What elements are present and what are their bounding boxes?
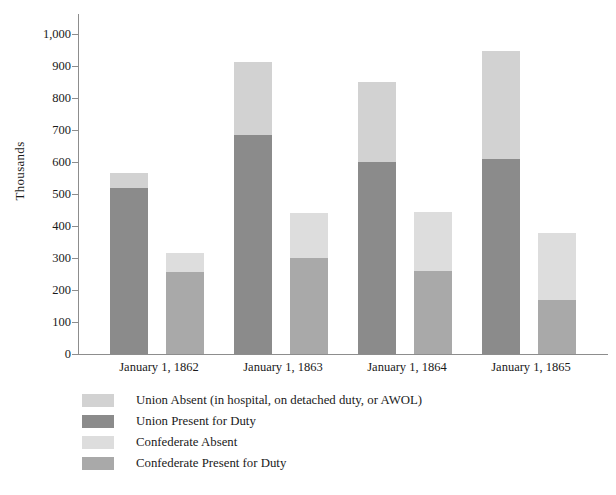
y-axis-tick-mark	[72, 226, 78, 227]
x-axis-label: January 1, 1865	[476, 360, 586, 375]
x-axis-line	[78, 354, 608, 355]
bar-segment-absent	[358, 82, 396, 162]
legend-label: Union Absent (in hospital, on detached d…	[136, 394, 422, 407]
bar-segment-present	[358, 162, 396, 354]
bar-segment-absent	[234, 62, 272, 135]
chart-figure: Thousands 1,0009008007006005004003002001…	[0, 0, 616, 495]
bar-group	[104, 14, 214, 354]
y-axis-tick-label: 1,000	[43, 28, 71, 41]
bar-union	[482, 51, 520, 354]
bar-group	[352, 14, 462, 354]
y-axis-tick-mark	[72, 258, 78, 259]
bar-confederate	[290, 213, 328, 354]
bar-confederate	[414, 212, 452, 354]
y-axis-tick-label: 400	[52, 220, 71, 233]
y-axis-tick-mark	[72, 66, 78, 67]
y-axis-tick-mark	[72, 194, 78, 195]
legend-label: Union Present for Duty	[136, 415, 256, 428]
y-axis-tick-label: 700	[52, 124, 71, 137]
legend-item: Confederate Absent	[82, 432, 552, 453]
bar-confederate	[166, 253, 204, 354]
y-axis-tick-label: 200	[52, 284, 71, 297]
x-axis-label: January 1, 1862	[104, 360, 214, 375]
legend-swatch	[82, 394, 114, 407]
bar-segment-present	[538, 300, 576, 354]
bar-group	[228, 14, 338, 354]
bar-union	[358, 82, 396, 354]
y-axis-tick-mark	[72, 162, 78, 163]
bar-group	[476, 14, 586, 354]
bar-segment-present	[414, 271, 452, 354]
y-axis-tick-label: 600	[52, 156, 71, 169]
legend-item: Union Present for Duty	[82, 411, 552, 432]
legend-item: Confederate Present for Duty	[82, 453, 552, 474]
x-axis-label: January 1, 1863	[228, 360, 338, 375]
y-axis-tick-label: 0	[65, 348, 71, 361]
bar-segment-absent	[414, 212, 452, 271]
bar-segment-present	[290, 258, 328, 354]
y-axis-title-text: Thousands	[12, 141, 28, 200]
y-axis-tick-mark	[72, 322, 78, 323]
y-axis-tick-mark	[72, 354, 78, 355]
bar-segment-present	[166, 272, 204, 354]
y-axis-tick-mark	[72, 290, 78, 291]
bar-segment-absent	[110, 173, 148, 187]
bar-segment-present	[234, 135, 272, 354]
bar-segment-absent	[482, 51, 520, 159]
bar-union	[234, 62, 272, 354]
plot-area: 1,0009008007006005004003002001000 Januar…	[78, 14, 608, 355]
legend-swatch	[82, 436, 114, 449]
x-axis-label: January 1, 1864	[352, 360, 462, 375]
y-axis-tick-mark	[72, 130, 78, 131]
y-axis-title: Thousands	[11, 0, 29, 341]
y-axis-tick-label: 300	[52, 252, 71, 265]
bar-confederate	[538, 233, 576, 354]
y-axis-tick-label: 500	[52, 188, 71, 201]
legend-swatch	[82, 415, 114, 428]
legend-swatch	[82, 457, 114, 470]
bar-segment-absent	[290, 213, 328, 258]
legend-label: Confederate Present for Duty	[136, 457, 286, 470]
bar-segment-absent	[538, 233, 576, 300]
y-axis-tick-mark	[72, 98, 78, 99]
legend-label: Confederate Absent	[136, 436, 237, 449]
y-axis-tick-label: 100	[52, 316, 71, 329]
bar-segment-absent	[166, 253, 204, 272]
y-axis-tick-mark	[72, 34, 78, 35]
y-axis-tick-label: 800	[52, 92, 71, 105]
bar-union	[110, 173, 148, 354]
legend-item: Union Absent (in hospital, on detached d…	[82, 390, 552, 411]
chart-legend: Union Absent (in hospital, on detached d…	[82, 390, 552, 474]
y-axis-tick-label: 900	[52, 60, 71, 73]
bar-segment-present	[482, 159, 520, 354]
y-axis-line	[78, 14, 79, 355]
bar-segment-present	[110, 188, 148, 354]
